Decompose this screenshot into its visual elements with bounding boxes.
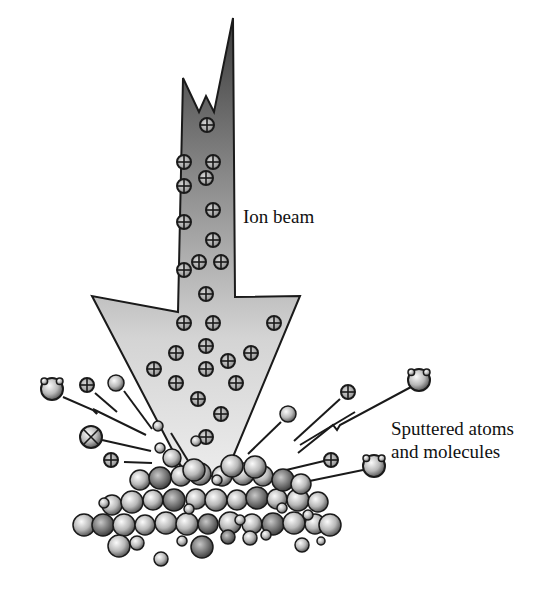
- ion-plus-icon: [177, 316, 191, 330]
- diagram-canvas: Ion beam Sputtered atoms and molecules: [0, 0, 554, 594]
- molecule-icon: [363, 455, 385, 477]
- molecule-icon: [41, 378, 63, 400]
- ion-plus-icon: [177, 155, 191, 169]
- ion-plus-icon: [206, 233, 220, 247]
- ion-plus-icon: [206, 203, 220, 217]
- atom-icon: [155, 443, 165, 453]
- ion-plus-icon: [199, 339, 213, 353]
- ion-plus-icon: [214, 407, 228, 421]
- molecule-icon: [408, 369, 430, 391]
- ion-plus-icon: [206, 155, 220, 169]
- ion-plus-icon: [200, 118, 214, 132]
- atom-icon: [280, 406, 296, 422]
- ion-plus-icon: [199, 287, 213, 301]
- ion-beam-label: Ion beam: [243, 205, 314, 229]
- ion-plus-icon: [206, 316, 220, 330]
- atom-icon: [153, 421, 163, 431]
- ion-plus-icon: [191, 392, 205, 406]
- ion-plus-icon: [214, 255, 228, 269]
- ion-plus-icon: [199, 362, 213, 376]
- ion-plus-icon: [341, 385, 355, 399]
- ion-plus-icon: [199, 171, 213, 185]
- ion-plus-icon: [80, 378, 94, 392]
- ion-plus-icon: [104, 453, 118, 467]
- ion-plus-icon: [177, 263, 191, 277]
- ion-plus-icon: [229, 376, 243, 390]
- cross-atom: [80, 426, 102, 448]
- atom-icon: [191, 436, 201, 446]
- ion-plus-icon: [177, 215, 191, 229]
- ion-plus-icon: [221, 354, 235, 368]
- sputtered-label-line1: Sputtered atoms: [391, 417, 514, 441]
- ion-plus-icon: [324, 453, 338, 467]
- sputtering-illustration: [0, 0, 554, 594]
- ion-plus-icon: [169, 346, 183, 360]
- sputtered-label-line2: and molecules: [391, 440, 500, 464]
- ion-plus-icon: [267, 316, 281, 330]
- ion-plus-icon: [177, 179, 191, 193]
- ion-plus-icon: [192, 255, 206, 269]
- atom-icon: [108, 375, 124, 391]
- ion-plus-icon: [169, 376, 183, 390]
- cross-atom-icon: [80, 426, 102, 448]
- ion-plus-icon: [244, 346, 258, 360]
- ion-beam-arrow: [92, 18, 300, 476]
- ion-plus-icon: [147, 362, 161, 376]
